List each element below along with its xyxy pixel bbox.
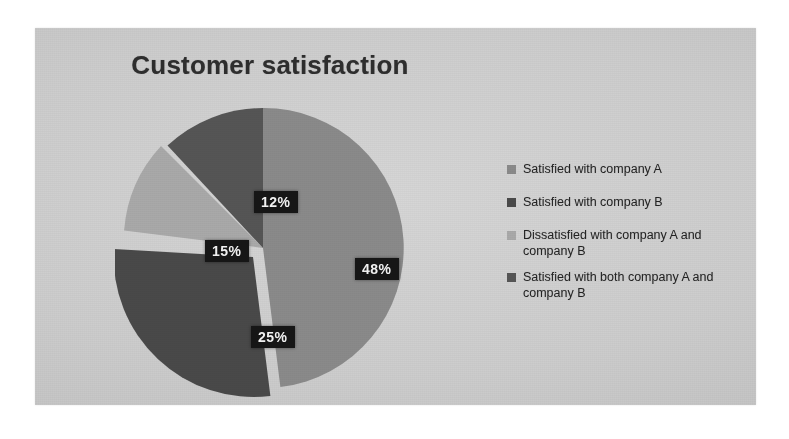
legend-swatch-icon: [507, 198, 516, 207]
page-canvas: Customer satisfaction: [0, 0, 789, 439]
pie-chart-svg: [115, 100, 425, 400]
legend-item-satisfied-both[interactable]: Satisfied with both company A and compan…: [507, 269, 757, 301]
legend-swatch-icon: [507, 231, 516, 240]
chart-legend: Satisfied with company A Satisfied with …: [507, 161, 757, 311]
legend-item-satisfied-company-b[interactable]: Satisfied with company B: [507, 194, 757, 210]
legend-item-label: Satisfied with company A: [523, 161, 662, 177]
pie-chart: [115, 100, 425, 400]
data-label-15: 15%: [205, 240, 249, 262]
legend-item-label: Dissatisfied with company A and company …: [523, 227, 735, 259]
legend-item-label: Satisfied with both company A and compan…: [523, 269, 735, 301]
legend-item-dissatisfied-both[interactable]: Dissatisfied with company A and company …: [507, 227, 757, 259]
chart-panel: Customer satisfaction: [35, 28, 756, 405]
legend-swatch-icon: [507, 165, 516, 174]
data-label-25: 25%: [251, 326, 295, 348]
pie-slice-satisfied-company-b[interactable]: [115, 249, 270, 397]
data-label-48: 48%: [355, 258, 399, 280]
data-label-12: 12%: [254, 191, 298, 213]
legend-item-label: Satisfied with company B: [523, 194, 663, 210]
legend-swatch-icon: [507, 273, 516, 282]
legend-item-satisfied-company-a[interactable]: Satisfied with company A: [507, 161, 757, 177]
chart-title: Customer satisfaction: [35, 50, 505, 81]
